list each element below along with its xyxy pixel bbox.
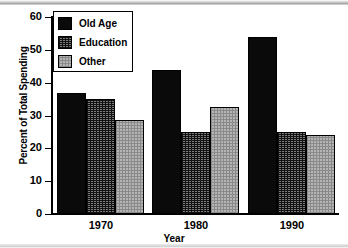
y-axis-tick <box>45 50 51 51</box>
legend-swatch-icon <box>58 55 72 68</box>
bar-1990-other <box>306 135 335 214</box>
bar-1990-education <box>277 132 306 214</box>
bar-1970-other <box>115 120 144 214</box>
bar-1980-old-age <box>152 70 181 214</box>
y-axis-tick <box>45 214 51 215</box>
y-axis-tick-label: 60 <box>20 11 42 22</box>
legend-item-label: Education <box>79 37 127 48</box>
y-axis-tick-label: 0 <box>20 208 42 219</box>
legend-item-old-age: Old Age <box>58 16 117 30</box>
x-axis-title: Year <box>0 233 348 244</box>
legend-item-education: Education <box>58 35 127 49</box>
legend-item-label: Old Age <box>79 18 117 29</box>
legend-swatch-icon <box>58 36 72 49</box>
y-axis-tick <box>45 17 51 18</box>
y-axis-title: Percent of Total Spending <box>18 36 29 176</box>
bar-1970-old-age <box>57 93 86 214</box>
scan-artifact-top <box>0 0 348 5</box>
bar-chart: 0102030405060 Percent of Total Spending … <box>0 0 348 248</box>
bar-1980-education <box>181 132 210 214</box>
bar-1970-education <box>86 99 115 214</box>
y-axis-tick <box>45 148 51 149</box>
bar-1980-other <box>210 107 239 214</box>
legend-item-label: Other <box>79 56 106 67</box>
y-axis-tick <box>45 83 51 84</box>
legend-swatch-icon <box>58 17 72 30</box>
chart-legend: Old AgeEducationOther <box>53 11 133 72</box>
legend-item-other: Other <box>58 54 106 68</box>
scan-artifact-bottom <box>0 244 348 248</box>
x-axis-label-1970: 1970 <box>71 219 131 231</box>
y-axis-tick <box>45 181 51 182</box>
bar-1990-old-age <box>248 37 277 214</box>
x-axis-label-1990: 1990 <box>262 219 322 231</box>
x-axis-label-1980: 1980 <box>166 219 226 231</box>
y-axis-tick-label: 10 <box>20 175 42 186</box>
y-axis-tick <box>45 116 51 117</box>
